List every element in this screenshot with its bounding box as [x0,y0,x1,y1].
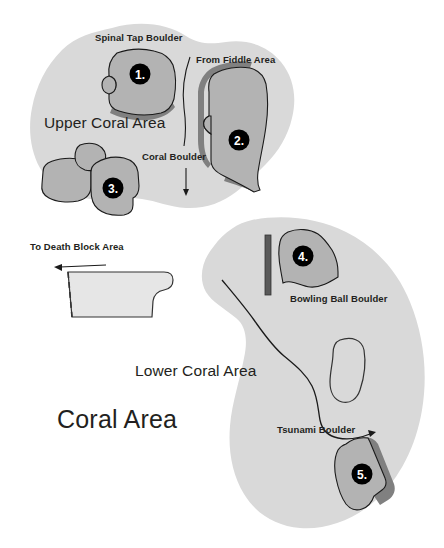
label-spinal-tap-boulder: Spinal Tap Boulder [95,33,183,43]
label-lower-coral-area: Lower Coral Area [135,363,256,379]
coral-area-map: 1. 2. 3. 4. [0,0,444,548]
label-to-death-block-area: To Death Block Area [30,242,124,252]
boulder-5-marker-number: 5. [357,468,367,482]
label-tsunami-boulder: Tsunami Boulder [277,425,355,435]
label-coral-boulder: Coral Boulder [142,152,206,162]
boulder-3-marker-number: 3. [108,182,118,196]
boulder-4-marker-number: 4. [298,250,308,264]
map-graphics: 1. 2. 3. 4. [0,0,444,548]
label-from-fiddle-area: From Fiddle Area [196,55,275,65]
label-bowling-ball-boulder: Bowling Ball Boulder [290,294,388,304]
boulder-1-notch [102,76,116,94]
access-block-polygon [68,272,173,317]
trail-marker-bar [265,235,271,295]
death-block-arrow-line [60,265,106,267]
boulder-1-marker-number: 1. [135,68,145,82]
boulder-2-marker-number: 2. [234,134,244,148]
map-title: Coral Area [57,407,177,432]
death-block-arrowhead [54,264,62,271]
label-upper-coral-area: Upper Coral Area [44,115,165,131]
